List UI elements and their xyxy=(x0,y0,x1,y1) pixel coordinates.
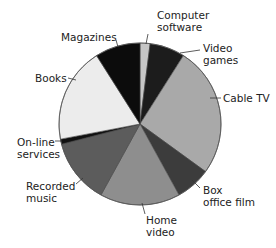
label-books: Books xyxy=(35,72,67,84)
label-home-video: Home video xyxy=(146,214,177,238)
label-computer-software: Computer software xyxy=(157,9,209,33)
leader-video-games xyxy=(180,50,200,53)
label-online-services: On-line services xyxy=(17,136,60,160)
label-box-office-film: Box office film xyxy=(203,184,255,208)
label-recorded-music: Recorded music xyxy=(26,180,75,204)
label-magazines: Magazines xyxy=(61,31,117,43)
label-video-games: Video games xyxy=(203,42,238,66)
label-cable-tv: Cable TV xyxy=(223,92,270,104)
leader-computer-software xyxy=(146,34,148,44)
pie-chart xyxy=(0,0,276,248)
pie-slices xyxy=(59,43,221,205)
